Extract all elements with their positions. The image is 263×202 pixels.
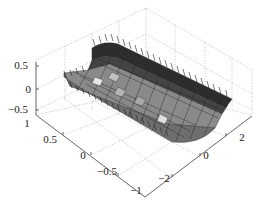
y-tick-label: −1	[130, 184, 142, 196]
y-axis-labels: 1 0.5 0 −0.5 −1	[24, 117, 142, 196]
x-tick-label: −2	[158, 172, 170, 184]
z-tick-label: 0	[26, 83, 32, 95]
x-tick-label: 2	[239, 131, 245, 143]
z-tick-label: −0.5	[8, 103, 28, 115]
z-axis-labels: 0.5 0 −0.5	[8, 59, 31, 115]
surface	[64, 43, 232, 143]
y-tick-label: −0.5	[97, 165, 117, 177]
y-tick-label: 0	[80, 149, 86, 161]
y-tick-label: 1	[24, 117, 30, 129]
surface-plot-3d: 0.5 0 −0.5 1 0.5 0 −0.5 −1 −2 0 2	[0, 0, 263, 202]
y-tick-label: 0.5	[43, 133, 57, 145]
z-tick-label: 0.5	[14, 59, 28, 71]
x-tick-label: 0	[203, 149, 209, 161]
